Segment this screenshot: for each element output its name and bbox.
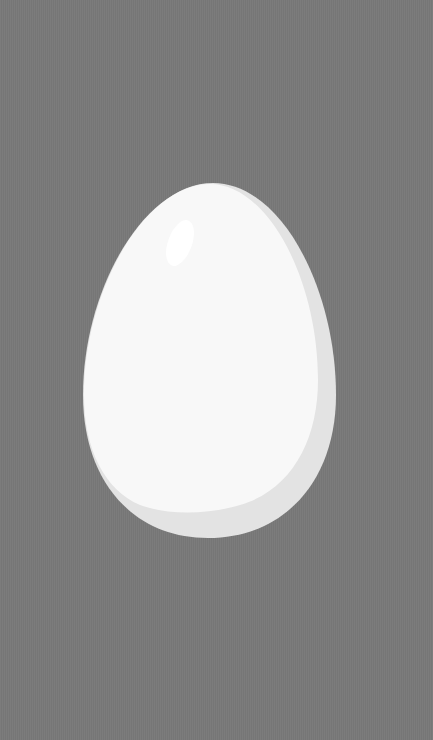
egg-illustration (0, 0, 433, 740)
gray-background (0, 0, 433, 740)
